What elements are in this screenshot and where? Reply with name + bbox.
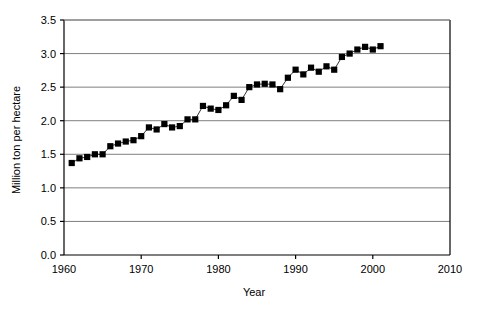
data-point-marker xyxy=(293,67,299,73)
data-point-marker xyxy=(177,123,183,129)
data-point-marker xyxy=(246,84,252,90)
data-point-marker xyxy=(254,81,260,87)
data-point-marker xyxy=(123,138,129,144)
data-point-marker xyxy=(370,46,376,52)
data-point-marker xyxy=(161,121,167,127)
data-point-marker xyxy=(277,86,283,92)
data-point-marker xyxy=(208,106,214,112)
data-point-marker xyxy=(92,151,98,157)
data-point-marker xyxy=(138,133,144,139)
x-axis-title: Year xyxy=(243,286,266,298)
data-point-marker xyxy=(285,75,291,81)
data-point-marker xyxy=(200,103,206,109)
data-point-marker xyxy=(215,107,221,113)
data-point-marker xyxy=(339,54,345,60)
x-tick-label: 1960 xyxy=(52,263,76,275)
data-point-marker xyxy=(238,97,244,103)
data-point-marker xyxy=(223,102,229,108)
y-tick-label: 3.5 xyxy=(41,14,56,26)
y-tick-label: 1.5 xyxy=(41,148,56,160)
data-point-marker xyxy=(331,67,337,73)
x-tick-label: 2000 xyxy=(361,263,385,275)
y-tick-label: 0.0 xyxy=(41,249,56,261)
data-point-marker xyxy=(130,137,136,143)
y-tick-label: 0.5 xyxy=(41,215,56,227)
chart-container: 196019701980199020002010 0.00.51.01.52.0… xyxy=(0,0,478,313)
data-point-marker xyxy=(323,63,329,69)
y-axis-title: Million ton per hectare xyxy=(10,86,22,194)
data-point-marker xyxy=(362,44,368,50)
data-point-marker xyxy=(262,81,268,87)
data-point-marker xyxy=(269,81,275,87)
data-point-marker xyxy=(146,124,152,130)
data-point-marker xyxy=(316,69,322,75)
y-tick-label: 2.0 xyxy=(41,115,56,127)
data-point-marker xyxy=(100,151,106,157)
data-point-marker xyxy=(169,124,175,130)
data-point-marker xyxy=(84,154,90,160)
data-point-marker xyxy=(347,50,353,56)
data-point-marker xyxy=(107,143,113,149)
x-tick-label: 1970 xyxy=(129,263,153,275)
data-point-marker xyxy=(300,71,306,77)
data-point-marker xyxy=(377,43,383,49)
y-tick-label: 2.5 xyxy=(41,81,56,93)
data-point-marker xyxy=(154,126,160,132)
x-tick-label: 1980 xyxy=(206,263,230,275)
x-tick-label: 2010 xyxy=(438,263,462,275)
data-point-marker xyxy=(354,46,360,52)
data-point-marker xyxy=(115,140,121,146)
data-point-marker xyxy=(192,116,198,122)
y-tick-label: 1.0 xyxy=(41,182,56,194)
y-tick-label: 3.0 xyxy=(41,48,56,60)
data-point-marker xyxy=(231,93,237,99)
data-point-marker xyxy=(69,160,75,166)
scatter-chart: 196019701980199020002010 0.00.51.01.52.0… xyxy=(0,0,478,313)
data-point-marker xyxy=(184,116,190,122)
data-point-marker xyxy=(308,65,314,71)
data-point-marker xyxy=(76,155,82,161)
x-tick-label: 1990 xyxy=(283,263,307,275)
